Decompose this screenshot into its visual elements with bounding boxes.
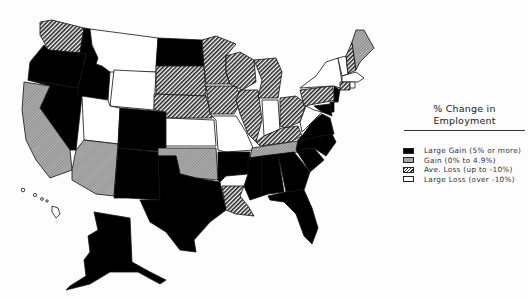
state-AK bbox=[66, 212, 166, 290]
gain-swatch bbox=[403, 157, 414, 163]
legend-label: Ave. Loss (up to -10%) bbox=[424, 165, 513, 174]
legend: % Change in Employment Large Gain (5% or… bbox=[398, 103, 529, 184]
state-KS bbox=[166, 118, 216, 146]
state-ME bbox=[352, 30, 374, 70]
state-CT bbox=[340, 82, 350, 90]
state-FL bbox=[268, 190, 318, 244]
state-AZ bbox=[72, 140, 118, 196]
legend-item-gain: Gain (0% to 4.9%) bbox=[403, 156, 529, 165]
us-employment-map bbox=[0, 0, 400, 298]
state-MT bbox=[90, 29, 158, 72]
state-NM bbox=[114, 148, 160, 200]
state-SD bbox=[156, 66, 206, 96]
state-DE bbox=[330, 102, 334, 112]
state-RI bbox=[350, 82, 355, 88]
legend-items: Large Gain (5% or more) Gain (0% to 4.9%… bbox=[398, 146, 529, 184]
state-NY bbox=[300, 58, 342, 88]
state-ND bbox=[156, 38, 204, 66]
legend-title: % Change in Employment bbox=[404, 103, 525, 131]
legend-label: Gain (0% to 4.9%) bbox=[424, 156, 496, 165]
legend-title-line2: Employment bbox=[404, 115, 525, 127]
legend-item-ave-loss: Ave. Loss (up to -10%) bbox=[403, 165, 529, 174]
state-WY bbox=[110, 70, 156, 110]
legend-title-line1: % Change in bbox=[404, 103, 525, 115]
state-NJ bbox=[334, 86, 340, 102]
state-CO bbox=[118, 108, 166, 152]
state-AR bbox=[218, 152, 250, 182]
ave-loss-swatch bbox=[403, 167, 414, 173]
large-loss-swatch bbox=[403, 176, 414, 182]
large-gain-swatch bbox=[403, 148, 414, 154]
legend-item-large-gain: Large Gain (5% or more) bbox=[403, 146, 529, 155]
legend-label: Large Loss (over -10%) bbox=[424, 175, 515, 184]
state-WI bbox=[226, 52, 256, 90]
legend-item-large-loss: Large Loss (over -10%) bbox=[403, 175, 529, 184]
legend-label: Large Gain (5% or more) bbox=[424, 146, 521, 155]
state-HI bbox=[21, 188, 60, 218]
